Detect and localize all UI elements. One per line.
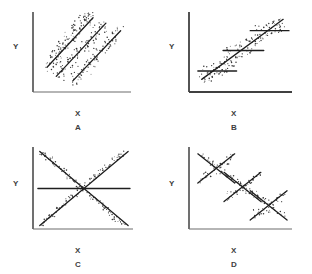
data-point — [58, 46, 59, 47]
data-point — [69, 58, 71, 60]
data-point — [113, 33, 114, 34]
data-point — [115, 40, 116, 41]
data-point — [230, 60, 231, 61]
data-point — [98, 34, 100, 36]
data-point — [271, 32, 272, 33]
data-point — [227, 68, 228, 69]
data-point — [55, 64, 57, 66]
data-point — [214, 73, 216, 75]
data-point — [69, 197, 70, 198]
data-point — [42, 225, 44, 227]
data-point — [209, 161, 210, 162]
data-point — [259, 41, 260, 42]
data-point — [66, 178, 67, 179]
data-point — [91, 197, 92, 198]
data-point — [109, 46, 110, 47]
data-point — [120, 154, 121, 155]
data-point — [216, 72, 217, 73]
data-point — [219, 61, 220, 62]
data-point — [68, 196, 69, 197]
data-point — [57, 207, 59, 209]
data-point — [102, 205, 104, 207]
data-point — [205, 171, 207, 173]
data-point — [79, 27, 81, 29]
data-point — [230, 154, 231, 155]
data-point — [202, 69, 203, 70]
data-point — [76, 48, 78, 50]
data-point — [255, 45, 256, 46]
data-point — [255, 217, 256, 218]
data-point — [78, 73, 79, 74]
data-point — [102, 209, 103, 210]
data-point — [227, 164, 228, 165]
data-point — [113, 216, 115, 218]
data-point — [237, 194, 238, 195]
data-point — [108, 48, 110, 50]
data-point — [265, 198, 266, 199]
data-point — [91, 74, 92, 75]
data-point — [98, 170, 99, 171]
data-point — [284, 194, 285, 195]
data-point — [112, 32, 113, 33]
data-point — [90, 58, 91, 59]
data-point — [90, 22, 91, 23]
data-point — [96, 59, 98, 61]
data-point — [72, 33, 73, 34]
data-point — [66, 169, 68, 171]
data-point — [69, 38, 70, 39]
data-point — [222, 74, 223, 75]
data-point — [112, 33, 114, 35]
data-point — [84, 13, 85, 14]
data-point — [263, 213, 265, 215]
data-point — [94, 55, 95, 56]
data-point — [206, 66, 207, 67]
data-point — [231, 65, 232, 66]
panel-d-letter: D — [231, 261, 237, 269]
panel-a: Y X A — [0, 0, 156, 137]
data-point — [273, 205, 274, 206]
data-point — [257, 34, 259, 36]
data-point — [65, 32, 66, 33]
data-point — [67, 39, 68, 40]
data-point — [62, 42, 63, 43]
data-point — [50, 55, 51, 56]
data-point — [53, 63, 54, 64]
figure-root: Y X A Y X B Y X C — [0, 0, 312, 274]
data-point — [104, 165, 105, 166]
data-point — [224, 169, 225, 170]
data-point — [45, 67, 46, 68]
data-point — [114, 156, 115, 157]
data-point — [227, 193, 228, 194]
data-point — [264, 199, 265, 200]
data-point — [120, 222, 121, 223]
data-point — [70, 194, 71, 195]
data-point — [262, 38, 263, 39]
data-point — [115, 221, 116, 222]
data-point — [48, 215, 49, 216]
data-point — [81, 69, 82, 70]
data-point — [94, 66, 95, 67]
data-point — [65, 44, 66, 45]
data-point — [236, 44, 237, 45]
data-point — [232, 197, 233, 198]
data-point — [88, 50, 89, 51]
data-point — [67, 57, 68, 58]
data-point — [117, 30, 118, 31]
data-point — [203, 153, 204, 154]
data-point — [268, 199, 269, 200]
data-point — [262, 208, 263, 209]
data-point — [262, 197, 263, 198]
data-point — [201, 73, 202, 74]
data-point — [78, 79, 79, 80]
data-point — [247, 184, 248, 185]
data-point — [229, 53, 230, 54]
data-point — [52, 156, 53, 157]
data-point — [104, 41, 105, 42]
panel-a-x-label: X — [75, 110, 81, 118]
data-point — [97, 60, 98, 61]
data-point — [59, 76, 60, 77]
data-point — [236, 57, 237, 58]
data-point — [99, 173, 100, 174]
data-point — [66, 36, 67, 37]
data-point — [99, 26, 100, 27]
